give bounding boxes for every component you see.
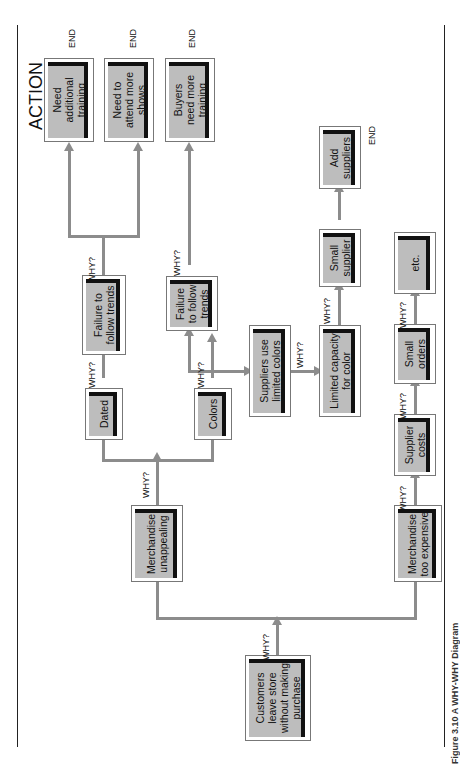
connector — [156, 580, 159, 620]
connector — [137, 150, 140, 238]
node-buyers-need-more-training: Buyers need more training — [165, 58, 215, 142]
connector — [102, 235, 105, 275]
node-small-supplier: Small supplier — [319, 229, 361, 287]
why-label: WHY? — [87, 257, 97, 283]
node-customers-leave-store: Customers leave store without making pur… — [245, 655, 311, 741]
node-need-additional-training: Need additional training — [44, 58, 94, 142]
connector — [156, 460, 159, 505]
why-label: WHY? — [295, 342, 305, 368]
connector — [68, 150, 71, 238]
node-limited-capacity-for-color: Limited capacity for color — [319, 325, 361, 417]
why-label: WHY? — [172, 250, 182, 276]
why-label: WHY? — [398, 302, 408, 328]
why-label: WHY? — [261, 634, 271, 660]
why-label: WHY? — [398, 486, 408, 512]
node-supplier-costs: Supplier costs — [394, 414, 436, 476]
end-label: END — [67, 29, 77, 48]
node-need-to-attend-more-shows: Need to attend more shows — [104, 58, 154, 142]
node-failure-to-follow-trends-2: Failure to follow trends — [166, 276, 218, 331]
connector — [68, 235, 140, 238]
connector — [338, 288, 341, 326]
node-dated: Dated — [85, 388, 123, 440]
connector — [156, 617, 416, 620]
connector — [338, 190, 341, 220]
end-label: END — [367, 126, 377, 145]
why-label: WHY? — [87, 362, 97, 388]
connector — [211, 440, 214, 460]
connector — [102, 459, 214, 462]
connector — [102, 440, 105, 460]
connector — [414, 384, 417, 414]
node-add-suppliers: Add suppliers — [319, 126, 361, 189]
why-label: WHY? — [322, 298, 332, 324]
arrow-icon — [64, 142, 74, 151]
node-failure-to-follow-trends-1: Failure to follow trends — [82, 275, 126, 355]
connector — [188, 150, 191, 265]
connector — [188, 335, 191, 373]
node-colors: Colors — [194, 388, 232, 440]
why-label: WHY? — [398, 393, 408, 419]
node-merchandise-too-expensive: Merchandise too expensive — [394, 505, 442, 582]
node-small-orders: Small orders — [394, 324, 436, 384]
end-label: END — [187, 29, 197, 48]
why-label: WHY? — [141, 472, 151, 498]
node-etc: etc. — [394, 232, 436, 294]
connector — [414, 294, 417, 324]
frame-line-right — [444, 25, 445, 747]
why-label: WHY? — [196, 362, 206, 388]
figure-caption: Figure 3.10 A WHY-WHY Diagram — [450, 623, 460, 764]
node-suppliers-use-limited-colors: Suppliers use limited colors — [249, 325, 291, 417]
arrow-icon — [207, 333, 217, 342]
frame-line-left — [17, 25, 18, 747]
node-merchandise-unappealing: Merchandise unappealing — [131, 505, 183, 582]
end-label: END — [128, 29, 138, 48]
arrow-icon — [184, 142, 194, 151]
arrow-icon — [133, 142, 143, 151]
connector — [414, 580, 417, 620]
